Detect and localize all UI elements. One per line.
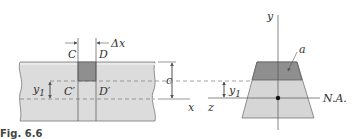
- label-x-axis: x: [188, 101, 195, 114]
- label-y-axis: y: [266, 10, 274, 23]
- label-area-a: a: [299, 43, 306, 56]
- label-D: D: [98, 48, 108, 61]
- label-z-axis: z: [207, 101, 214, 114]
- label-delta-x: Δx: [110, 37, 126, 50]
- label-y1-section: y1: [228, 84, 241, 99]
- label-neutral-axis: N.A.: [322, 92, 347, 105]
- beam-view: C D Δx C′ D′ y1 c x: [19, 37, 252, 121]
- label-C: C: [68, 48, 77, 61]
- figure-caption: Fig. 6.6: [0, 128, 42, 139]
- section-view: y z a y1 N.A.: [207, 10, 347, 130]
- figure-6-6: C D Δx C′ D′ y1 c x y z a y1 N.A. Fig. 6…: [0, 0, 363, 139]
- label-C-prime: C′: [64, 85, 75, 98]
- beam-element-shaded: [78, 62, 96, 81]
- centroid-point: [276, 96, 280, 100]
- label-D-prime: D′: [98, 85, 111, 98]
- section-area-a-shaded: [252, 62, 302, 80]
- label-c: c: [166, 74, 172, 87]
